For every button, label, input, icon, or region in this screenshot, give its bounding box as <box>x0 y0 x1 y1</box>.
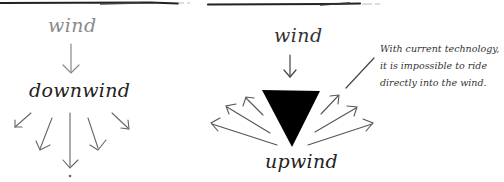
upwind-label: upwind <box>265 150 338 172</box>
brush-stroke-right <box>208 3 380 5</box>
annotation-line-1: With current technology, <box>380 40 504 57</box>
annotation-leader-line <box>346 58 374 88</box>
upwind-arrows-left-icon <box>211 97 277 145</box>
downwind-arrows-icon <box>15 113 129 177</box>
annotation-note: With current technology, it is impossibl… <box>380 40 504 91</box>
wind-arrow-left-icon <box>63 44 79 73</box>
brush-stroke-left <box>0 3 190 5</box>
wind-label-right: wind <box>274 24 323 46</box>
annotation-line-3: directly into the wind. <box>380 74 504 91</box>
annotation-line-2: it is impossible to ride <box>380 57 504 74</box>
no-go-zone-triangle-icon <box>262 90 320 147</box>
wind-label-left: wind <box>48 14 97 36</box>
upwind-arrows-right-icon <box>308 95 373 145</box>
downwind-label: downwind <box>29 79 130 101</box>
wind-arrow-right-icon <box>284 55 296 77</box>
